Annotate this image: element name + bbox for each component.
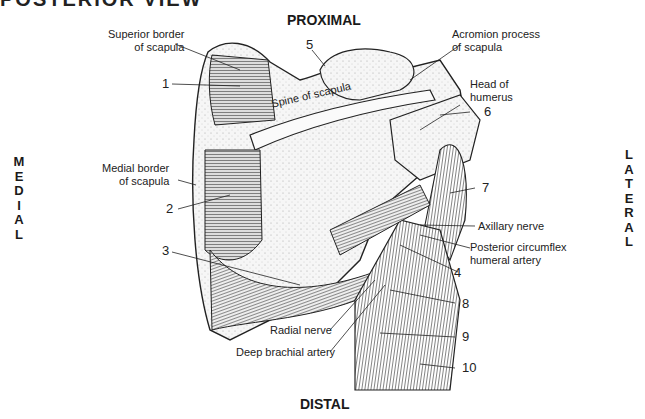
number-2: 2 — [166, 202, 173, 216]
label-posterior-circumflex: Posterior circumflex humeral artery — [470, 241, 567, 267]
number-3: 3 — [162, 244, 169, 258]
label-axillary-nerve: Axillary nerve — [478, 220, 544, 233]
orientation-proximal: PROXIMAL — [287, 12, 361, 28]
number-5: 5 — [306, 38, 313, 52]
number-10: 10 — [462, 361, 476, 375]
orientation-medial: M E D I A L — [12, 155, 26, 242]
label-superior-border: Superior border of scapula — [108, 28, 184, 54]
orientation-distal: DISTAL — [300, 396, 350, 412]
number-9: 9 — [462, 330, 469, 344]
label-acromion: Acromion process of scapula — [452, 28, 540, 54]
label-medial-border: Medial border of scapula — [102, 162, 169, 188]
number-4: 4 — [454, 266, 461, 280]
number-1: 1 — [162, 77, 169, 91]
number-6: 6 — [484, 105, 491, 119]
label-radial-nerve: Radial nerve — [270, 324, 332, 337]
orientation-lateral: L A T E R A L — [622, 148, 636, 250]
number-8: 8 — [462, 297, 469, 311]
label-deep-brachial: Deep brachial artery — [236, 346, 335, 359]
number-7: 7 — [482, 181, 489, 195]
label-head-humerus: Head of humerus — [470, 78, 513, 104]
